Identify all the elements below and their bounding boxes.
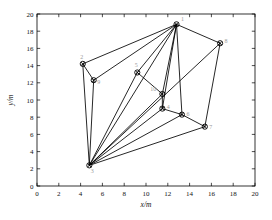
y-tick-label: 4 xyxy=(30,148,34,156)
node-label: 7 xyxy=(209,124,212,130)
y-tick-label: 20 xyxy=(27,11,35,19)
node-label: 4 xyxy=(167,104,170,110)
node-label: 1 xyxy=(181,16,184,22)
x-tick-label: 0 xyxy=(35,190,39,198)
scatter-network-plot: 12345678910 0246810121416182002468101214… xyxy=(0,0,272,220)
y-tick-label: 12 xyxy=(27,79,35,87)
data-point: 1 xyxy=(174,16,184,27)
x-tick-label: 6 xyxy=(101,190,105,198)
data-point: 8 xyxy=(218,38,228,46)
x-tick-label: 12 xyxy=(164,190,172,198)
y-axis-title: y/m xyxy=(6,94,15,106)
x-tick-label: 4 xyxy=(79,190,83,198)
edge xyxy=(177,24,182,114)
y-tick-label: 6 xyxy=(30,131,34,139)
figure-container: 12345678910 0246810121416182002468101214… xyxy=(0,0,272,220)
y-tick-label: 14 xyxy=(27,62,35,70)
data-point: 6 xyxy=(179,111,189,118)
node-label: 3 xyxy=(91,168,94,174)
edge xyxy=(83,24,177,64)
data-point: 9 xyxy=(91,78,100,86)
x-tick-label: 16 xyxy=(208,190,216,198)
axes-layer xyxy=(37,14,255,186)
y-tick-label: 16 xyxy=(27,45,35,53)
x-axis-title: x/m xyxy=(140,200,152,209)
edge xyxy=(182,115,205,127)
x-tick-label: 18 xyxy=(230,190,238,198)
x-tick-label: 8 xyxy=(122,190,126,198)
x-tick-label: 2 xyxy=(57,190,61,198)
x-tick-label: 14 xyxy=(186,190,194,198)
y-tick-label: 18 xyxy=(27,28,35,36)
node-label: 5 xyxy=(135,62,138,68)
edge xyxy=(137,24,176,72)
edge xyxy=(89,43,220,165)
x-tick-label: 20 xyxy=(252,190,260,198)
x-tick-label: 10 xyxy=(143,190,151,198)
y-tick-label: 2 xyxy=(30,165,34,173)
plot-frame xyxy=(37,14,255,186)
node-label: 9 xyxy=(97,79,100,85)
edge xyxy=(162,109,182,115)
edge xyxy=(89,109,162,166)
y-tick-label: 10 xyxy=(27,97,35,105)
edge xyxy=(177,24,221,43)
y-tick-label: 8 xyxy=(30,114,34,122)
node-label: 10 xyxy=(150,86,156,92)
node-label: 8 xyxy=(225,38,228,44)
edge xyxy=(83,64,90,165)
y-tick-label: 0 xyxy=(30,183,34,191)
edge xyxy=(89,80,93,165)
edges-layer xyxy=(83,24,220,165)
node-label: 6 xyxy=(186,111,189,117)
node-label: 2 xyxy=(80,54,83,60)
